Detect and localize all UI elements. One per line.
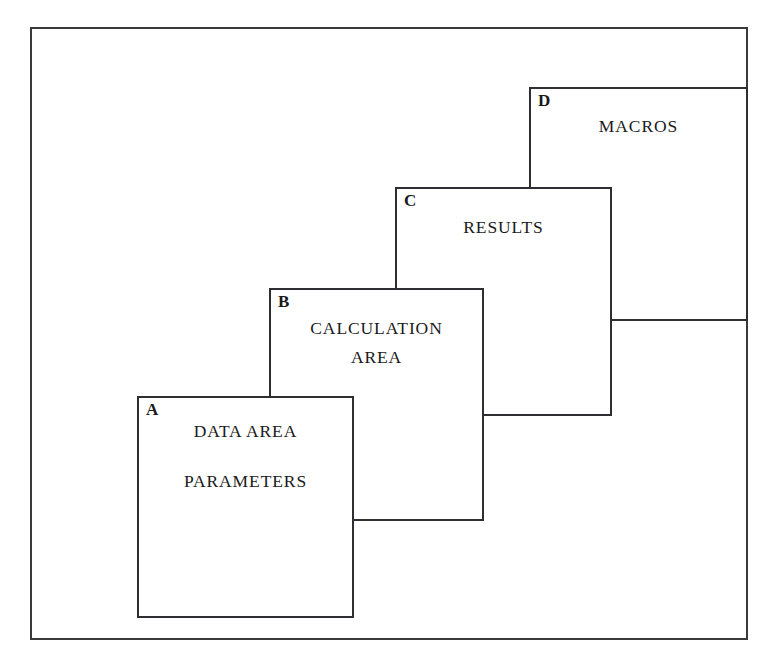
panel-key-a: A [146,401,158,418]
panel-label-line: DATA AREA [139,421,352,442]
panel-data-area[interactable]: A DATA AREA PARAMETERS [137,396,354,618]
panel-label-line: MACROS [531,116,746,137]
panel-body-calculation-area: CALCULATION AREA [271,318,482,368]
panel-key-c: C [404,192,416,209]
outer-border-frame: D MACROS C RESULTS B CALCULATION AREA A … [30,27,748,640]
panel-label-line: RESULTS [397,217,610,238]
panel-body-results: RESULTS [397,217,610,238]
diagram-canvas: D MACROS C RESULTS B CALCULATION AREA A … [0,0,774,662]
panel-label-line: AREA [271,347,482,368]
panel-label-line: PARAMETERS [139,471,352,492]
panel-key-d: D [538,92,550,109]
panel-body-macros: MACROS [531,116,746,137]
panel-label-line: CALCULATION [271,318,482,339]
panel-key-b: B [278,293,290,310]
panel-body-data-area: DATA AREA PARAMETERS [139,421,352,492]
